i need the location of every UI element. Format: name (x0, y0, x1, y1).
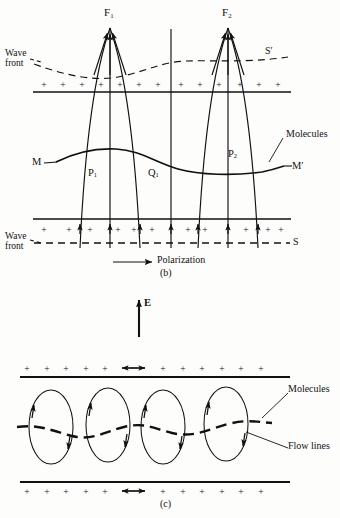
svg-text:+: + (44, 364, 49, 374)
svg-text:+: + (197, 80, 202, 90)
label-point-p2: P2 (228, 148, 237, 160)
svg-text:+: + (24, 364, 29, 374)
wavefront-top-curve (34, 57, 288, 78)
svg-text:+: + (278, 225, 283, 235)
molecule-chain-c (17, 421, 272, 437)
svg-text:+: + (44, 487, 49, 497)
svg-text:+: + (258, 487, 263, 497)
svg-text:+: + (83, 364, 88, 374)
svg-text:+: + (24, 487, 29, 497)
svg-text:+: + (136, 80, 141, 90)
svg-text:+: + (79, 80, 84, 90)
label-m-right: M′ (292, 160, 304, 171)
svg-text:+: + (41, 225, 46, 235)
flow-ellipse-3 (141, 390, 185, 464)
label-wavefront-bottom: Wave front (5, 232, 26, 252)
svg-text:+: + (41, 80, 46, 90)
charge-row-bottom-c: ++ ++ + ++ ++ ++ (24, 487, 263, 497)
svg-text:+: + (63, 487, 68, 497)
svg-text:+: + (258, 364, 263, 374)
svg-text:+: + (155, 80, 160, 90)
label-field-E: E (144, 297, 151, 308)
label-surface-bottom: S (293, 237, 299, 248)
caption-panel-c: (c) (160, 499, 171, 510)
label-molecules-b: Molecules (286, 129, 328, 140)
svg-text:+: + (102, 364, 107, 374)
leader-flow-lines-c (246, 432, 288, 448)
svg-text:+: + (202, 225, 207, 235)
svg-text:+: + (63, 364, 68, 374)
panel-c: ++ ++ + ++ ++ ++ ++ ++ + ++ ++ ++ (17, 364, 290, 497)
flow-ellipse-2 (86, 388, 130, 462)
label-focus-2: F2 (222, 7, 232, 19)
label-polarization: Polarization (157, 255, 205, 266)
ray-f1-left (80, 28, 110, 248)
panel-b: ++ ++ ++ ++ ++ ++ + ++ ++ ++ ++ ++ + (30, 28, 292, 262)
svg-text:+: + (98, 80, 103, 90)
svg-text:+: + (60, 80, 65, 90)
svg-text:+: + (185, 225, 190, 235)
svg-text:+: + (87, 225, 92, 235)
label-surface-top: S′ (265, 46, 273, 57)
label-molecules-c: Molecules (288, 384, 330, 395)
svg-text:+: + (199, 487, 204, 497)
svg-text:+: + (237, 80, 242, 90)
svg-text:+: + (149, 225, 154, 235)
svg-text:+: + (256, 80, 261, 90)
leader-m-left (44, 162, 57, 163)
arrow-f2-right (231, 33, 245, 75)
svg-text:+: + (83, 487, 88, 497)
svg-text:+: + (219, 487, 224, 497)
label-focus-1: F1 (104, 7, 114, 19)
svg-text:+: + (199, 364, 204, 374)
charge-row-top: ++ ++ ++ ++ ++ ++ + (41, 80, 280, 90)
svg-text:+: + (265, 225, 270, 235)
svg-text:+: + (115, 225, 120, 235)
arrow-f1-right (113, 33, 127, 75)
svg-text:+: + (216, 80, 221, 90)
polarization-arrows-bottom (80, 224, 258, 234)
svg-text:+: + (160, 364, 165, 374)
svg-text:+: + (180, 364, 185, 374)
svg-text:+: + (238, 364, 243, 374)
svg-text:+: + (178, 80, 183, 90)
svg-text:+: + (219, 364, 224, 374)
charge-row-top-c: ++ ++ + ++ ++ ++ (24, 364, 263, 374)
svg-text:+: + (117, 80, 122, 90)
svg-text:+: + (160, 487, 165, 497)
leader-molecules-c (262, 393, 288, 418)
leader-molecules-b (269, 138, 283, 162)
svg-text:+: + (66, 225, 71, 235)
label-m-left: M (32, 156, 41, 167)
arrow-f2-left (212, 33, 226, 75)
arrow-f1-left (94, 33, 108, 75)
label-flow-lines-c: Flow lines (288, 441, 330, 452)
ray-f1-right (110, 28, 140, 248)
svg-text:+: + (131, 225, 136, 235)
ray-f2-right (228, 28, 258, 248)
svg-text:+: + (243, 225, 248, 235)
charge-row-bottom: ++ ++ ++ ++ ++ + (41, 225, 283, 235)
caption-panel-b: (b) (160, 268, 172, 279)
svg-text:+: + (180, 487, 185, 497)
svg-text:+: + (275, 80, 280, 90)
label-point-q1: Q1 (148, 167, 159, 179)
label-point-p1: P1 (88, 167, 97, 179)
label-wavefront-top: Wave front (5, 49, 26, 69)
svg-text:+: + (238, 487, 243, 497)
leader-wavefront-top (30, 59, 41, 62)
svg-text:+: + (102, 487, 107, 497)
